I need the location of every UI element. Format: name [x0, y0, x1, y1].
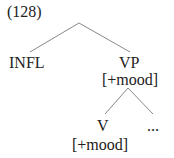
node-v-feature: [+mood] — [72, 137, 128, 153]
edge-root-vp — [79, 23, 130, 52]
node-v: V — [97, 118, 109, 134]
example-number: (128) — [7, 4, 42, 20]
node-vp-feature: [+mood] — [102, 72, 158, 88]
edge-vp-ellipsis — [128, 88, 153, 114]
edge-root-infl — [30, 23, 79, 52]
node-infl: INFL — [9, 55, 45, 71]
node-vp: VP — [119, 55, 139, 71]
node-ellipsis: ... — [147, 118, 159, 134]
edge-vp-v — [105, 88, 128, 114]
